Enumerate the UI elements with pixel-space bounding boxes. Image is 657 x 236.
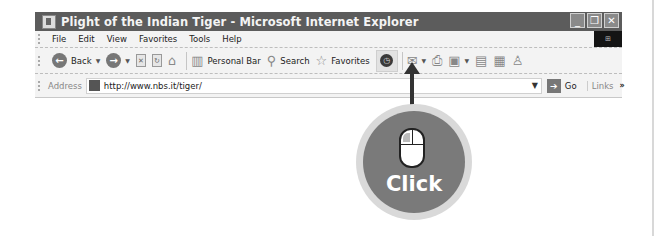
favorites-star-icon: ☆ xyxy=(316,53,328,68)
messenger-button[interactable]: ♙ xyxy=(512,53,524,68)
callout-arrowhead xyxy=(404,62,420,74)
mouse-button-split xyxy=(401,144,423,145)
print-icon: ⎙ xyxy=(432,53,442,69)
mouse-icon xyxy=(399,128,425,168)
forward-dropdown-icon[interactable]: ▼ xyxy=(125,57,130,64)
go-label: Go xyxy=(565,81,577,91)
stop-icon: ✕ xyxy=(136,54,146,67)
mouse-button-divider xyxy=(412,130,413,144)
mouse-left-button-highlight xyxy=(403,133,410,142)
edit-dropdown-icon[interactable]: ▼ xyxy=(464,57,469,64)
menu-file[interactable]: File xyxy=(52,34,66,44)
menu-help[interactable]: Help xyxy=(222,34,241,44)
search-button[interactable]: ⚲ Search xyxy=(267,53,310,68)
home-icon: ⌂ xyxy=(168,53,176,68)
links-more-chevron-icon[interactable]: » xyxy=(620,81,625,90)
forward-arrow-icon: → xyxy=(106,53,121,68)
toolbar-separator xyxy=(402,52,403,70)
favorites-label: Favorites xyxy=(331,56,369,66)
personal-bar-label: Personal Bar xyxy=(207,56,260,66)
click-label: Click xyxy=(363,172,465,196)
discuss-button[interactable]: ▤ xyxy=(475,53,487,68)
forward-button[interactable]: → ▼ xyxy=(106,53,130,68)
address-dropdown-icon[interactable]: ▼ xyxy=(532,81,538,90)
restore-button[interactable]: ❐ xyxy=(587,13,602,28)
standard-toolbar: ← Back ▼ → ▼ ✕ ↻ ⌂ ▥ Personal Bar ⚲ Sear… xyxy=(35,48,622,74)
edit-button[interactable]: ▣ ▼ xyxy=(448,53,469,68)
search-label: Search xyxy=(280,56,309,66)
window-title: Plight of the Indian Tiger - Microsoft I… xyxy=(61,15,419,29)
toolbar-grip[interactable] xyxy=(38,56,44,66)
back-dropdown-icon[interactable]: ▼ xyxy=(96,57,101,64)
address-value[interactable]: http://www.nbs.it/tiger/ xyxy=(104,81,202,91)
menu-grip[interactable] xyxy=(38,34,44,44)
mail-dropdown-icon[interactable]: ▼ xyxy=(422,57,427,64)
research-icon: ▦ xyxy=(493,53,505,68)
menu-favorites[interactable]: Favorites xyxy=(139,34,177,44)
history-clock-icon: ◷ xyxy=(380,54,393,67)
menu-bar: File Edit View Favorites Tools Help ⊞ xyxy=(35,31,622,48)
links-toolbar[interactable]: Links xyxy=(587,81,614,91)
window-controls: _ ❐ ✕ xyxy=(570,13,619,28)
toolbar-separator xyxy=(186,52,187,70)
go-arrow-icon: ➔ xyxy=(547,79,561,93)
menu-tools[interactable]: Tools xyxy=(189,34,210,44)
refresh-icon: ↻ xyxy=(152,54,162,67)
ie-page-icon xyxy=(42,15,56,29)
back-arrow-icon: ← xyxy=(52,53,67,68)
refresh-button[interactable]: ↻ xyxy=(152,54,162,67)
minimize-button[interactable]: _ xyxy=(570,13,585,28)
address-bar: Address http://www.nbs.it/tiger/ ▼ ➔ Go … xyxy=(35,74,622,98)
menu-view[interactable]: View xyxy=(107,34,127,44)
address-label: Address xyxy=(48,81,82,91)
favorites-button[interactable]: ☆ Favorites xyxy=(316,53,370,68)
back-label: Back xyxy=(71,56,92,66)
close-button[interactable]: ✕ xyxy=(604,13,619,28)
back-button[interactable]: ← Back ▼ xyxy=(52,53,100,68)
messenger-icon: ♙ xyxy=(512,53,524,68)
home-button[interactable]: ⌂ xyxy=(168,53,176,68)
browser-window: Plight of the Indian Tiger - Microsoft I… xyxy=(35,12,622,98)
address-input[interactable]: http://www.nbs.it/tiger/ ▼ xyxy=(86,78,542,94)
history-button[interactable]: ◷ xyxy=(376,50,398,72)
page-margin-line xyxy=(652,0,654,236)
edit-icon: ▣ xyxy=(448,53,460,68)
go-button[interactable]: ➔ Go xyxy=(547,79,577,93)
personal-bar-icon: ▥ xyxy=(191,53,203,68)
print-button[interactable]: ⎙ xyxy=(432,53,442,69)
stop-button[interactable]: ✕ xyxy=(136,54,146,67)
address-grip[interactable] xyxy=(38,81,40,91)
personal-bar-button[interactable]: ▥ Personal Bar xyxy=(191,53,261,68)
menu-edit[interactable]: Edit xyxy=(78,34,94,44)
page-favicon-icon xyxy=(89,80,100,91)
research-button[interactable]: ▦ xyxy=(493,53,505,68)
search-icon: ⚲ xyxy=(267,53,277,68)
discuss-icon: ▤ xyxy=(475,53,487,68)
title-bar: Plight of the Indian Tiger - Microsoft I… xyxy=(35,12,622,31)
windows-logo-throbber: ⊞ xyxy=(594,31,622,47)
